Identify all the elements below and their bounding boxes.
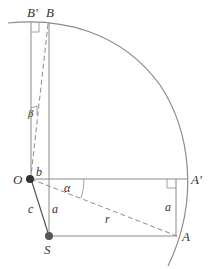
label-S: S (44, 242, 51, 257)
right-angle-B-prime (31, 23, 39, 32)
label-a-right: a (165, 200, 171, 214)
label-O: O (13, 172, 23, 187)
label-A: A (181, 229, 190, 244)
label-B-prime: B′ (27, 5, 38, 20)
label-B: B (46, 5, 54, 20)
alpha-angle-arc (81, 179, 84, 198)
geometry-diagram: B′ B β O b α A′ c a a r S A (0, 0, 210, 269)
label-alpha: α (64, 181, 71, 195)
label-beta: β (27, 107, 34, 119)
line-O-S (31, 179, 49, 236)
dashed-line-B-O (31, 24, 48, 176)
right-angle-A-prime (167, 179, 176, 188)
label-r: r (105, 212, 110, 226)
point-S (45, 232, 53, 240)
label-b: b (36, 165, 42, 179)
label-a-left: a (52, 202, 58, 216)
label-A-prime: A′ (190, 172, 202, 187)
label-c: c (28, 202, 34, 216)
point-O (26, 175, 34, 183)
